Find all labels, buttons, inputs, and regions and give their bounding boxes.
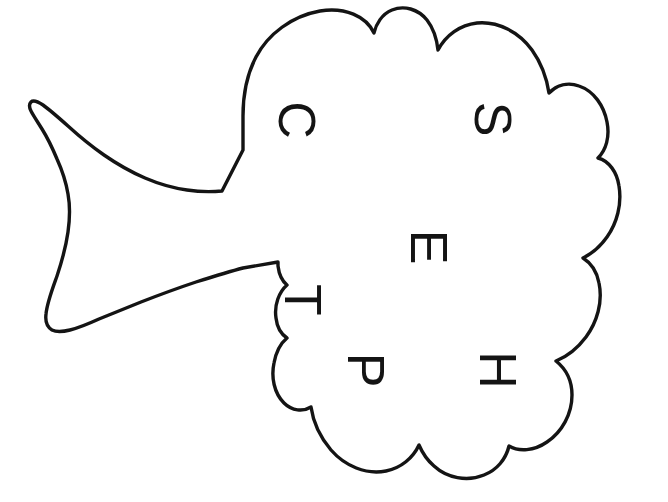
captcha-letter-t: T	[277, 284, 329, 316]
cloud-outline-svg	[0, 0, 668, 502]
cloud-bubble-outline	[30, 8, 620, 479]
captcha-letter-p: P	[340, 353, 392, 388]
captcha-image[interactable]: C S E T P H	[0, 0, 668, 502]
captcha-letter-c: C	[271, 101, 323, 139]
captcha-letter-e: E	[403, 230, 455, 265]
captcha-letter-h: H	[472, 351, 524, 389]
captcha-letter-s: S	[467, 102, 519, 137]
